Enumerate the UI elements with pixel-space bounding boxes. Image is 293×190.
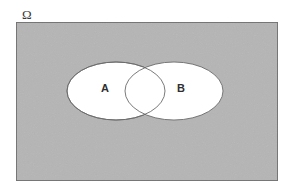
venn-diagram-figure: Ω A B bbox=[0, 0, 293, 190]
set-b-label: B bbox=[177, 82, 185, 94]
universe-label: Ω bbox=[22, 7, 32, 22]
set-b-ellipse bbox=[125, 62, 223, 120]
venn-diagram-canvas: Ω A B bbox=[0, 0, 293, 190]
set-a-label: A bbox=[101, 82, 109, 94]
